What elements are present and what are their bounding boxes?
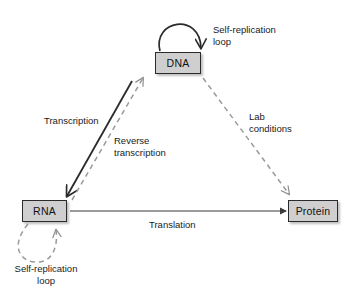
label-lab-conditions: Lab conditions: [249, 111, 329, 135]
label-transcription: Transcription: [44, 115, 120, 127]
label-translation: Translation: [149, 219, 233, 231]
node-protein[interactable]: Protein: [288, 200, 338, 222]
node-dna[interactable]: DNA: [155, 52, 201, 74]
label-dna-self-replication-loop: Self-replication loop: [213, 24, 323, 48]
label-reverse-transcription: Reverse transcription: [114, 135, 202, 159]
node-rna[interactable]: RNA: [22, 200, 67, 222]
dna-self-replication-loop-edge: [159, 24, 201, 51]
rna-self-replication-loop-edge: [18, 224, 56, 262]
central-dogma-diagram: DNA RNA Protein Self-replication loop Tr…: [0, 0, 351, 295]
lab-conditions-edge: [203, 78, 289, 194]
label-rna-self-replication-loop: Self-replication loop: [0, 263, 92, 287]
node-protein-label: Protein: [296, 206, 331, 217]
node-rna-label: RNA: [33, 206, 56, 217]
node-dna-label: DNA: [167, 58, 190, 69]
